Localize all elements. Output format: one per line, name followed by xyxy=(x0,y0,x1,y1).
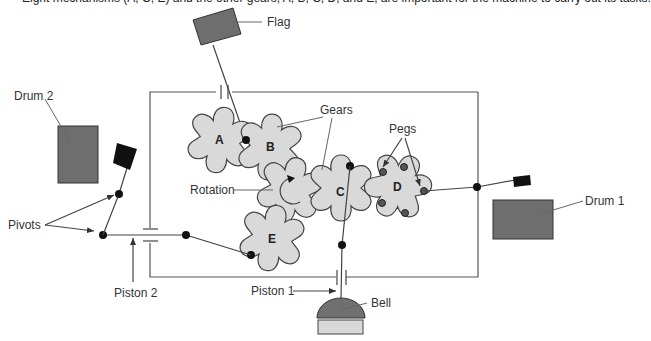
gear-C-label: C xyxy=(336,185,345,199)
drum-2: Drum 2 xyxy=(14,89,98,183)
gear-B-label: B xyxy=(266,140,275,154)
peg xyxy=(402,210,409,217)
rotation-label: Rotation xyxy=(190,183,235,197)
gear-D-label: D xyxy=(393,180,402,194)
drum-1: Drum 1 xyxy=(493,194,625,239)
peg xyxy=(379,200,386,207)
gear-A-label: A xyxy=(215,133,224,147)
piston-1-callout: Piston 1 xyxy=(251,284,336,298)
hammer-left xyxy=(113,143,137,170)
peg xyxy=(380,169,387,176)
gear-D: D xyxy=(356,142,441,229)
pivots-callout: Pivots xyxy=(8,195,114,232)
piston-1-label: Piston 1 xyxy=(251,284,295,298)
gear-E-label: E xyxy=(268,232,276,246)
bell: Bell xyxy=(317,296,391,334)
pivot-dot xyxy=(242,136,250,144)
peg xyxy=(401,164,408,171)
hammer-right xyxy=(513,175,531,187)
bell-label: Bell xyxy=(371,296,391,310)
pivots-label: Pivots xyxy=(8,218,41,232)
drum-1-label: Drum 1 xyxy=(585,194,625,208)
piston-2-callout: Piston 2 xyxy=(114,238,158,300)
pegs-label: Pegs xyxy=(389,122,416,136)
piston-2-label: Piston 2 xyxy=(114,286,158,300)
drum-2-label: Drum 2 xyxy=(14,89,54,103)
flag-label: Flag xyxy=(267,15,290,29)
gears-label: Gears xyxy=(320,103,353,117)
